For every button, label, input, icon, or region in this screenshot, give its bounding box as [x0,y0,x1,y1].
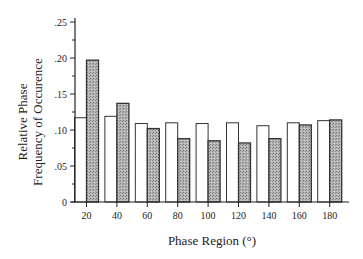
x-tick-label: 160 [292,210,307,221]
bar-open-140 [257,126,269,202]
y-tick-label: .25 [55,17,68,28]
x-tick-label: 40 [112,210,122,221]
y-tick-label: .20 [55,53,68,64]
bar-open-100 [196,124,208,202]
x-tick-label: 140 [261,210,276,221]
y-axis-label-line-2: Frequency of Occurence [30,58,45,186]
bar-hatched-40 [117,103,129,202]
y-tick-label: .05 [55,161,68,172]
bar-open-160 [287,123,299,202]
bar-hatched-140 [269,139,281,202]
bar-open-60 [135,124,147,202]
bar-open-120 [227,123,239,202]
bar-hatched-60 [147,129,159,202]
bar-open-80 [166,123,178,202]
y-tick-label: 0 [62,197,67,208]
y-tick-label: .15 [55,89,68,100]
bar-open-180 [318,121,330,202]
y-tick-label: .10 [55,125,68,136]
bar-open-20 [75,118,87,202]
x-tick-label: 20 [82,210,92,221]
x-tick-label: 100 [201,210,216,221]
bar-hatched-80 [178,139,190,202]
bar-open-40 [105,116,117,202]
x-tick-label: 80 [173,210,183,221]
x-axis-label: Phase Region (°) [168,233,256,248]
y-axis-label-line-1: Relative Phase [15,83,30,160]
y-axis-ticks: 0.05.10.15.20.25 [55,17,76,208]
x-axis-ticks: 20406080100120140160180 [82,202,338,221]
bar-hatched-20 [87,60,99,202]
bars-group [75,60,342,202]
x-tick-label: 60 [142,210,152,221]
x-tick-label: 180 [322,210,337,221]
bar-chart: 0.05.10.15.20.25 20406080100120140160180… [0,0,363,259]
x-tick-label: 120 [231,210,246,221]
bar-hatched-180 [330,120,342,202]
bar-hatched-120 [239,143,251,202]
bar-hatched-160 [299,125,311,202]
y-axis-label: Relative Phase Frequency of Occurence [15,58,45,186]
bar-hatched-100 [208,141,220,202]
